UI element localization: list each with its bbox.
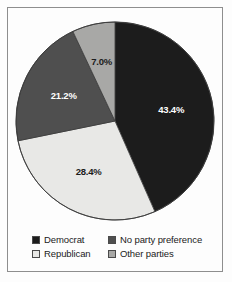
legend-swatch-democrat [32,236,40,244]
legend-label-democrat: Democrat [44,235,84,245]
legend-item-democrat[interactable]: Democrat [32,235,108,245]
legend-label-republican: Republican [44,249,91,259]
legend-swatch-republican [32,250,40,258]
pie-data-label-other-parties: 7.0% [91,56,113,67]
legend-swatch-other-parties [108,250,116,258]
chart-legend: Democrat No party preference Republican … [32,233,212,261]
legend-label-other-parties: Other parties [120,249,174,259]
legend-item-no-party-preference[interactable]: No party preference [108,235,212,245]
pie-slices [16,22,214,220]
legend-item-other-parties[interactable]: Other parties [108,249,212,259]
legend-label-no-party-preference: No party preference [120,235,202,245]
legend-item-republican[interactable]: Republican [32,249,108,259]
pie-data-label-republican: 28.4% [76,166,103,177]
pie-data-label-no-party-preference: 21.2% [51,90,78,101]
pie-chart-figure: 43.4%28.4%21.2%7.0% Democrat No party pr… [0,0,232,282]
pie-data-label-democrat: 43.4% [158,104,185,115]
legend-swatch-no-party-preference [108,236,116,244]
